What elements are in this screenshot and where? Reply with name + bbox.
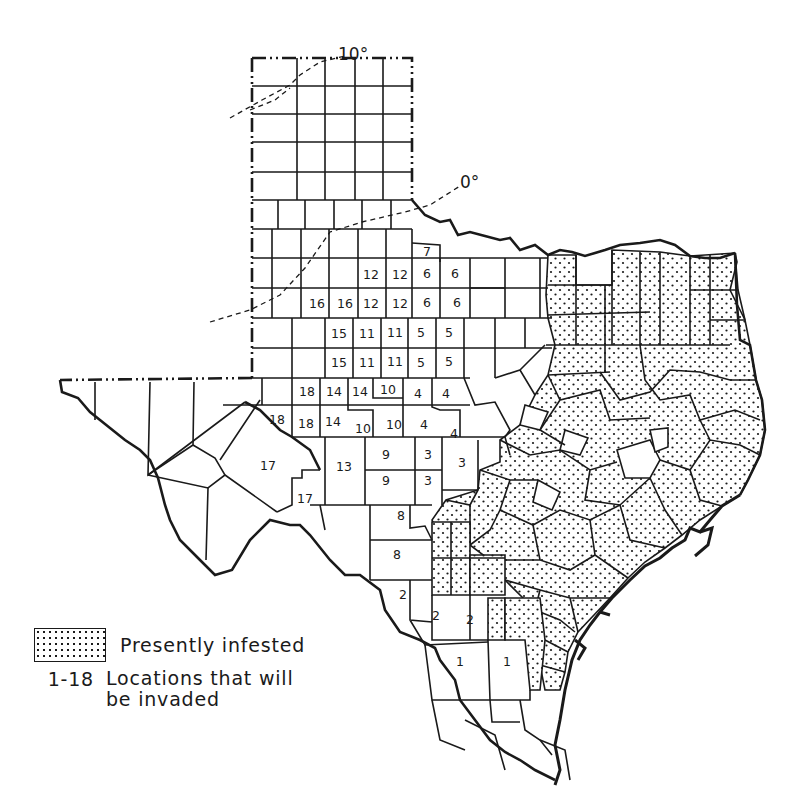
infested-region [432, 250, 765, 690]
county-location-label: 1 [456, 654, 464, 669]
county-location-label: 16 [337, 296, 353, 311]
legend-infested: Presently infested [34, 628, 305, 662]
isotherm-0-label: 0° [460, 172, 479, 192]
county-location-label: 6 [423, 266, 431, 281]
legend: Presently infested 1-18 Locations that w… [34, 628, 305, 710]
county-location-label: 5 [417, 325, 425, 340]
county-location-label: 2 [399, 587, 407, 602]
isotherm-10-label: 10° [338, 44, 368, 64]
county-location-label: 10 [386, 417, 402, 432]
county-location-label: 8 [397, 508, 405, 523]
county-location-label: 18 [299, 384, 315, 399]
county-location-label: 10 [355, 421, 371, 436]
legend-range-text-2: be invaded [106, 689, 294, 710]
county-location-label: 8 [393, 547, 401, 562]
county-location-label: 2 [432, 608, 440, 623]
county-location-label: 5 [445, 354, 453, 369]
county-location-label: 12 [363, 296, 379, 311]
legend-locations: 1-18 Locations that will be invaded [34, 668, 305, 710]
county-location-label: 14 [325, 414, 341, 429]
county-location-label: 10 [380, 382, 396, 397]
county-location-label: 6 [451, 266, 459, 281]
county-location-label: 6 [453, 295, 461, 310]
stipple-swatch [34, 628, 106, 662]
county-location-label: 4 [442, 386, 450, 401]
county-location-label: 2 [466, 612, 474, 627]
county-location-label: 4 [450, 426, 458, 441]
county-location-label: 11 [387, 325, 403, 340]
county-location-label: 13 [336, 459, 352, 474]
county-location-label: 3 [424, 447, 432, 462]
county-location-label: 5 [445, 325, 453, 340]
county-location-label: 15 [331, 355, 347, 370]
county-location-label: 18 [269, 412, 285, 427]
county-location-label: 5 [417, 355, 425, 370]
county-location-label: 11 [359, 326, 375, 341]
county-location-label: 9 [382, 473, 390, 488]
county-location-label: 9 [382, 447, 390, 462]
county-location-label: 11 [359, 355, 375, 370]
county-location-label: 15 [331, 326, 347, 341]
county-location-label: 18 [298, 416, 314, 431]
county-location-label: 4 [420, 417, 428, 432]
legend-range-text-1: Locations that will [106, 668, 294, 689]
county-location-label: 14 [326, 384, 342, 399]
county-location-label: 12 [363, 267, 379, 282]
county-location-label: 17 [260, 458, 276, 473]
county-location-label: 12 [392, 296, 408, 311]
county-location-label: 11 [387, 354, 403, 369]
county-location-label: 4 [414, 386, 422, 401]
county-location-label: 14 [352, 384, 368, 399]
county-location-label: 7 [423, 244, 431, 259]
isotherm-10 [230, 56, 345, 118]
county-location-label: 1 [503, 654, 511, 669]
county-location-label: 12 [392, 267, 408, 282]
legend-range-label: 1-18 [34, 668, 94, 690]
county-location-label: 3 [458, 455, 466, 470]
county-location-label: 17 [297, 491, 313, 506]
legend-infested-label: Presently infested [120, 634, 305, 656]
county-location-label: 16 [309, 296, 325, 311]
red-river-border [412, 200, 735, 258]
county-location-label: 3 [424, 473, 432, 488]
trans-pecos [95, 382, 325, 560]
county-location-label: 6 [423, 295, 431, 310]
